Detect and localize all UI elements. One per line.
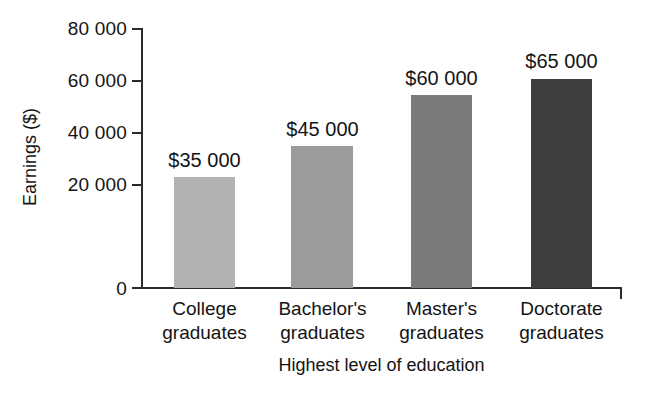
y-tick-label-20000: 20 000	[7, 175, 127, 194]
bar-masters-graduates	[411, 95, 472, 288]
bar-value-bachelors-graduates: $45 000	[252, 119, 393, 139]
bar-value-college-graduates: $35 000	[134, 150, 275, 170]
y-tick-label-60000-wrap: 60 000	[0, 71, 127, 90]
y-tick-label-20000-wrap: 20 000	[0, 175, 127, 194]
x-category-line-2: graduates	[491, 321, 632, 345]
x-axis-title: Highest level of education	[141, 355, 622, 375]
bar-college-graduates	[174, 177, 235, 288]
y-tick-label-40000-wrap: 40 000	[0, 123, 127, 142]
y-tick-label-0: 0	[7, 279, 127, 298]
bar-chart: Earnings ($) 80 000 60 000 40 000 20 000…	[0, 0, 648, 395]
y-tick-label-80000: 80 000	[7, 19, 127, 38]
bar-value-doctorate-graduates: $65 000	[491, 51, 632, 71]
y-tick-label-0-wrap: 0	[0, 279, 127, 298]
y-tick-label-60000: 60 000	[7, 71, 127, 90]
bar-bachelors-graduates	[291, 146, 353, 288]
x-category-line-1: Doctorate	[491, 297, 632, 321]
x-category-label-doctorate-graduates: Doctorate graduates	[491, 297, 632, 345]
bar-value-masters-graduates: $60 000	[371, 68, 512, 88]
y-tick-label-40000: 40 000	[7, 123, 127, 142]
bar-doctorate-graduates	[531, 79, 592, 288]
y-tick-label-80000-wrap: 80 000	[0, 19, 127, 38]
